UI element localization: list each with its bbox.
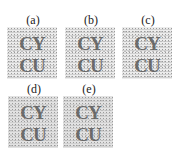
panel-label: (d) [8, 82, 60, 96]
image-text-line1: CY [63, 102, 113, 124]
image-text-line1: CY [122, 33, 172, 55]
image-text-line2: CU [8, 124, 58, 146]
noisy-text-image: CY CU [63, 96, 113, 148]
image-text-line1: CY [65, 33, 115, 55]
panel-label: (a) [7, 13, 59, 27]
noisy-text-image: CY CU [122, 27, 172, 79]
image-text-line2: CU [63, 124, 113, 146]
image-text-line1: CY [8, 102, 58, 124]
image-text-line2: CU [122, 55, 172, 77]
noisy-text-image: CY CU [7, 27, 57, 79]
noisy-text-image: CY CU [65, 27, 115, 79]
image-text-line1: CY [7, 33, 57, 55]
noisy-text-image: CY CU [8, 96, 58, 148]
panel-label: (b) [65, 13, 117, 27]
panel-label: (e) [63, 82, 115, 96]
image-text-line2: CU [7, 55, 57, 77]
image-text-line2: CU [65, 55, 115, 77]
panel-label: (c) [122, 13, 174, 27]
